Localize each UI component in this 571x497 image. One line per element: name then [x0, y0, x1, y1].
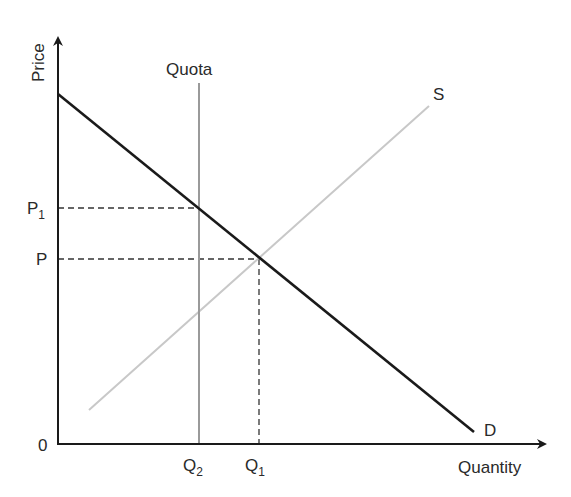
q2-label: Q2: [183, 456, 203, 479]
quota-diagram: Price Quantity 0 Quota S D P1 P Q2 Q1: [0, 0, 571, 497]
y-axis-label: Price: [29, 43, 48, 82]
p1-label: P1: [27, 199, 45, 222]
origin-label: 0: [38, 436, 47, 455]
q1-label: Q1: [245, 456, 265, 479]
x-axis-label: Quantity: [458, 458, 522, 477]
demand-label: D: [484, 421, 496, 440]
p-label: P: [36, 250, 47, 269]
supply-label: S: [433, 85, 444, 104]
quota-label: Quota: [166, 60, 213, 79]
